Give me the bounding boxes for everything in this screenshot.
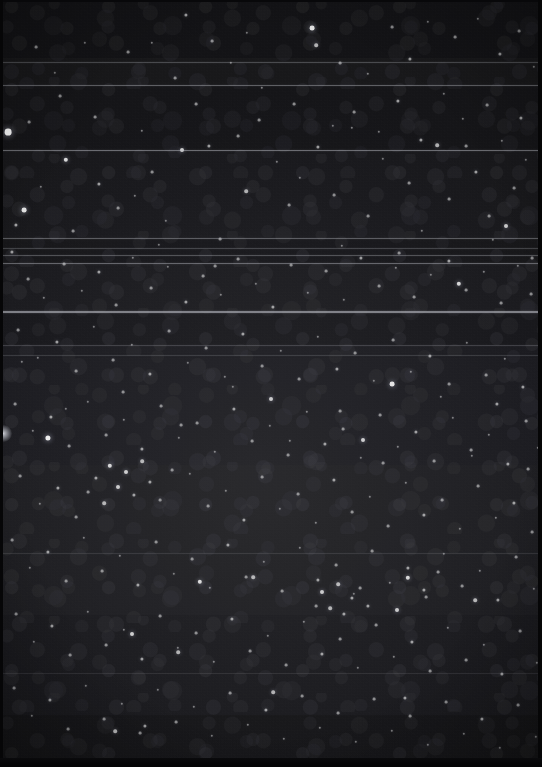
scan-line <box>0 355 542 356</box>
scan-line <box>0 248 542 249</box>
plate-border-top <box>0 0 542 2</box>
scan-line <box>0 150 542 151</box>
scan-line <box>0 553 542 554</box>
scan-line <box>0 673 542 674</box>
plate-border-bottom <box>0 758 542 767</box>
scan-line <box>0 255 542 256</box>
scan-line <box>0 62 542 63</box>
scan-line <box>0 263 542 264</box>
scan-line <box>0 85 542 86</box>
plate-border-right <box>538 0 542 767</box>
scan-line <box>0 311 542 313</box>
scanline-layer <box>0 0 542 767</box>
plate-border-left <box>0 0 3 767</box>
scan-line <box>0 238 542 239</box>
scan-line <box>0 345 542 346</box>
star-field-plate-viewer[interactable]: Dark night-sky survey frame: near-black … <box>0 0 542 767</box>
